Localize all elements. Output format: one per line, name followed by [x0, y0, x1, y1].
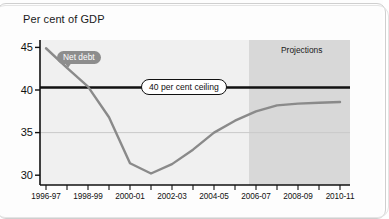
x-tick-label-2006-07: 2006-07 — [232, 192, 280, 201]
y-tick-label-45: 45 — [11, 41, 33, 53]
y-tick-label-30: 30 — [11, 169, 33, 181]
x-tick-label-2000-01: 2000-01 — [106, 192, 154, 201]
x-tick-label-1996-97: 1996-97 — [22, 192, 70, 201]
x-tick-label-2004-05: 2004-05 — [190, 192, 238, 201]
net-debt-callout-pointer — [64, 62, 72, 68]
x-tick-label-1998-99: 1998-99 — [64, 192, 112, 201]
ceiling-callout-label: 40 per cent ceiling — [141, 79, 227, 95]
x-tick-label-2010-11: 2010-11 — [316, 192, 364, 201]
net-debt-callout: Net debt — [57, 51, 101, 64]
y-tick-label-35: 35 — [11, 126, 33, 138]
projections-shading — [249, 40, 350, 185]
projections-region-label: Projections — [281, 45, 322, 55]
x-tick-label-2002-03: 2002-03 — [148, 192, 196, 201]
x-tick-label-2008-09: 2008-09 — [274, 192, 322, 201]
y-tick-label-40: 40 — [11, 84, 33, 96]
